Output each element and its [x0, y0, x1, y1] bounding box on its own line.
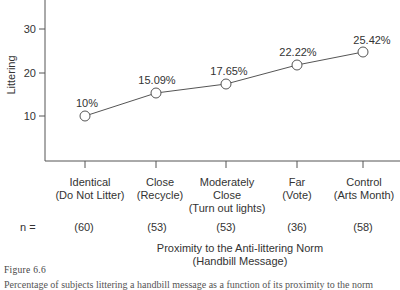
y-axis-label: Littering [5, 55, 17, 94]
n-value: (36) [287, 221, 307, 233]
x-axis-label: (Handbill Message) [193, 255, 288, 267]
n-label: n = [20, 221, 36, 233]
y-tick-label: 30 [24, 23, 36, 35]
y-tick-label: 10 [24, 110, 36, 122]
n-value: (53) [216, 221, 236, 233]
data-point [221, 79, 231, 89]
data-point [292, 60, 302, 70]
data-label: 10% [76, 97, 98, 109]
n-value: (58) [353, 221, 373, 233]
data-label: 25.42% [353, 34, 391, 46]
category-label: (Recycle) [137, 189, 183, 201]
category-label: (Do Not Litter) [55, 189, 124, 201]
category-label: Close [146, 176, 174, 188]
y-tick-label: 20 [24, 67, 36, 79]
data-label: 15.09% [138, 74, 176, 86]
n-value: (53) [147, 221, 167, 233]
figure-number: Figure 6.6 [4, 265, 46, 275]
category-label: Far [289, 176, 306, 188]
data-point [80, 111, 90, 121]
category-label: Control [346, 176, 381, 188]
data-point [358, 47, 368, 57]
x-axis-label: Proximity to the Anti-littering Norm [157, 242, 323, 254]
data-label: 17.65% [210, 65, 248, 77]
category-label: (Turn out lights) [189, 202, 266, 214]
category-label: Moderately [200, 176, 255, 188]
category-label: Close [213, 189, 241, 201]
category-label: (Arts Month) [334, 189, 395, 201]
figure-caption: Percentage of subjects littering a handb… [4, 279, 373, 290]
data-label: 22.22% [279, 46, 317, 58]
n-value: (60) [74, 221, 94, 233]
category-label: (Vote) [282, 189, 311, 201]
data-point [151, 88, 161, 98]
category-label: Identical [70, 176, 111, 188]
